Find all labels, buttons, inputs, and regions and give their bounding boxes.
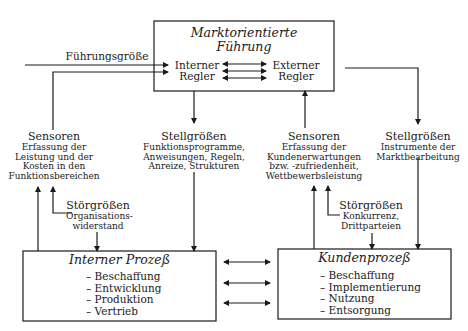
right-sensors-block: Sensoren Erfassung der Kundenerwartungen… — [262, 131, 366, 182]
customer-process-item: – Beschaffung — [320, 270, 421, 282]
right-disturbance-block: Störgrößen Konkurrenz, Drittparteien — [338, 200, 404, 231]
left-disturbance-line: widerstand — [66, 222, 130, 232]
right-actuators-line: Marktbearbeitung — [372, 153, 464, 163]
internal-process-item: – Produktion — [86, 294, 161, 306]
top-box-title-line1: Marktorientierte — [154, 26, 334, 40]
top-box-title-line2: Führung — [154, 40, 334, 54]
internal-process-title: Interner Prozeß — [23, 253, 216, 267]
left-sensors-block: Sensoren Erfassung der Leistung und der … — [0, 131, 108, 182]
internal-controller-label: Interner Regler — [170, 60, 224, 83]
left-sensor-feedback-arrow — [53, 72, 168, 130]
left-sensors-line: Funktionsbereichen — [0, 172, 108, 182]
customer-process-list: – Beschaffung – Implementierung – Nutzun… — [320, 270, 421, 316]
internal-process-list: – Beschaffung – Entwicklung – Produktion… — [86, 271, 161, 317]
internal-controller-line2: Regler — [170, 71, 224, 82]
left-disturbance-block: Störgrößen Organisations- widerstand — [66, 200, 130, 231]
customer-process-title: Kundenprozeß — [278, 251, 451, 265]
right-sensors-line: Wettbewerbsleistung — [262, 172, 366, 182]
right-actuators-block: Stellgrößen Instrumente der Marktbearbei… — [372, 131, 464, 162]
right-disturbance-line: Drittparteien — [338, 222, 404, 232]
left-actuators-line: Anreize, Strukturen — [136, 162, 252, 172]
internal-process-item: – Vertrieb — [86, 306, 161, 318]
right-actuator-arrow — [345, 68, 418, 124]
customer-process-item: – Entsorgung — [320, 305, 421, 317]
internal-process-item: – Beschaffung — [86, 271, 161, 283]
reference-input-label: Führungsgröße — [62, 51, 152, 62]
customer-process-item: – Nutzung — [320, 293, 421, 305]
external-controller-line2: Regler — [268, 71, 324, 82]
left-actuators-block: Stellgrößen Funktionsprogramme, Anweisun… — [136, 131, 252, 172]
external-controller-label: Externer Regler — [268, 60, 324, 83]
top-box-title: Marktorientierte Führung — [154, 26, 334, 53]
